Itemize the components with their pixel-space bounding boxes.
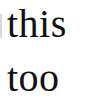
left-edge-artifact bbox=[0, 14, 2, 38]
text-line-2: too bbox=[7, 58, 60, 98]
text-line-1: this bbox=[7, 4, 67, 44]
